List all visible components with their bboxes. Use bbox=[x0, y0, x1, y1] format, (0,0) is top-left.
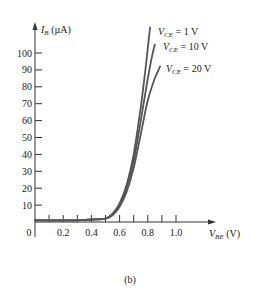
y-tick-label: 30 bbox=[22, 166, 32, 177]
y-tick-label: 40 bbox=[22, 149, 32, 160]
y-tick-label: 50 bbox=[22, 132, 32, 143]
x-axis-title: VBE (V) bbox=[209, 228, 240, 241]
curve-v-ce-1-v bbox=[35, 28, 150, 221]
y-tick-label: 10 bbox=[22, 200, 32, 211]
ib-vbe-characteristic-chart: 10203040506070809010000.20.40.60.81.0IB … bbox=[0, 0, 260, 288]
x-tick-label: 0.6 bbox=[113, 227, 126, 238]
y-tick-label: 60 bbox=[22, 115, 32, 126]
x-axis-arrow-icon bbox=[208, 220, 216, 225]
y-tick-label: 20 bbox=[22, 183, 32, 194]
y-axis-title: IB (µA) bbox=[40, 24, 71, 37]
x-tick-label: 0.2 bbox=[57, 227, 70, 238]
series-label: VCE = 1 V bbox=[158, 26, 199, 39]
figure-caption: (b) bbox=[124, 274, 136, 286]
curve-v-ce-20-v bbox=[35, 67, 160, 221]
x-tick-label: 1.0 bbox=[170, 227, 183, 238]
y-tick-label: 100 bbox=[17, 48, 32, 59]
series-label: VCE = 10 V bbox=[163, 41, 209, 54]
y-tick-label: 80 bbox=[22, 81, 32, 92]
y-tick-label: 90 bbox=[22, 64, 32, 75]
y-axis-arrow-icon bbox=[33, 22, 38, 30]
x-tick-label: 0.8 bbox=[142, 227, 155, 238]
curves bbox=[35, 28, 160, 221]
x-tick-label: 0 bbox=[27, 227, 32, 238]
labels: 10203040506070809010000.20.40.60.81.0IB … bbox=[17, 24, 240, 286]
y-tick-label: 70 bbox=[22, 98, 32, 109]
series-label: VCE = 20 V bbox=[166, 63, 212, 76]
axes bbox=[33, 22, 217, 237]
x-tick-label: 0.4 bbox=[85, 227, 98, 238]
